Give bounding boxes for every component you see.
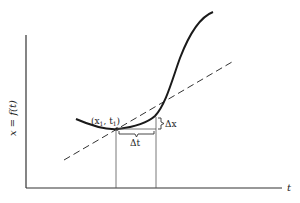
derivative-diagram: x = f(t) t Δt Δx (x1, t1) — [0, 0, 300, 203]
delta-t-brace — [119, 131, 154, 137]
point-label: (x1, t1) — [91, 116, 120, 127]
delta-x-brace — [158, 118, 164, 129]
x-axis-label: t — [287, 182, 292, 193]
tangent-line — [64, 62, 232, 160]
delta-t-label: Δt — [130, 138, 140, 148]
delta-x-label: Δx — [165, 119, 177, 129]
y-axis-label: x = f(t) — [7, 100, 18, 136]
function-curve — [76, 12, 213, 129]
